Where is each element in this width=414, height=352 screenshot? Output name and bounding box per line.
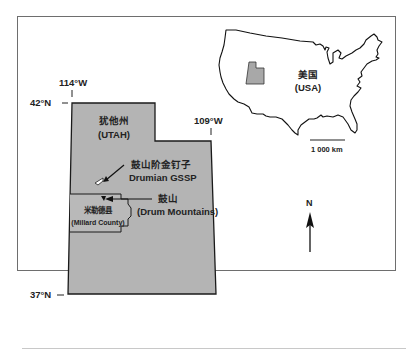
label-109w: 109°W (194, 116, 223, 126)
gssp-label-en: Drumian GSSP (129, 173, 197, 183)
drum-mountains-label-en: (Drum Mountains) (137, 207, 218, 217)
scale-bar-label: 1 000 km (311, 146, 343, 154)
north-arrow-label: N (306, 199, 313, 208)
label-42n: 42°N (30, 98, 51, 108)
millard-county-label-en: (Millard County) (70, 219, 126, 226)
utah-name-en: (UTAH) (89, 130, 139, 140)
label-114w: 114°W (59, 78, 87, 88)
label-37n: 37°N (30, 290, 51, 300)
usa-name-cn: 美国 (290, 70, 326, 80)
drum-mountains-label-cn: 鼓山 (158, 194, 178, 204)
gssp-label-cn: 鼓山阶金钉子 (131, 160, 191, 170)
utah-name-cn: 犹他州 (92, 116, 136, 126)
millard-county-label-cn: 米勒德县 (70, 207, 126, 215)
usa-name-en: (USA) (287, 83, 329, 93)
map-canvas (0, 0, 414, 352)
